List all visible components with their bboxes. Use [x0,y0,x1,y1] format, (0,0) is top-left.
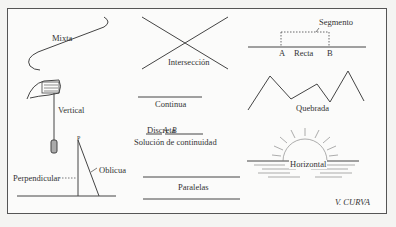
label-paralelas: Paralelas [178,183,209,192]
label-mixta: Mixta [52,34,72,43]
label-horizontal: Horizontal [289,160,327,169]
label-recta: Recta [294,49,313,58]
label-solucion-continuidad: Solución de continuidad [134,138,217,147]
label-point-a-discreta: A [163,127,168,135]
sunrise-icon [247,128,359,177]
vertical-line [51,93,57,153]
hand-icon [27,80,61,99]
label-vertical: Vertical [58,106,84,115]
label-point-a: A [279,49,285,58]
label-v-curva: V. CURVA [335,198,370,207]
mixta-line [29,17,108,70]
label-oblicua: Oblicua [99,166,126,175]
label-point-b: B [327,49,333,58]
label-segmento: Segmento [319,18,353,27]
label-interseccion: Intersección [168,58,210,67]
label-point-p: P [77,135,80,141]
label-continua: Continua [155,100,186,109]
label-quebrada: Quebrada [296,104,329,113]
label-perpendicular: Perpendicular [13,174,60,183]
label-point-b-discreta: B [172,127,177,135]
segment-line [248,28,366,47]
